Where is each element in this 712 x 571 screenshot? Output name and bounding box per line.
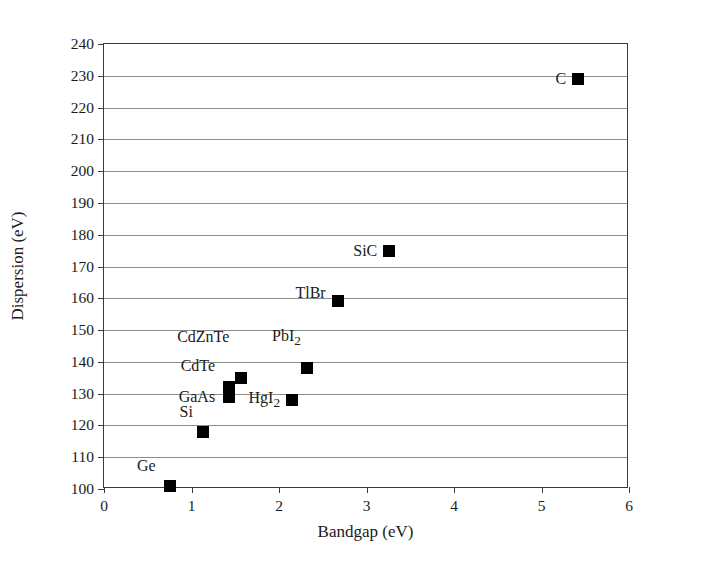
y-tick-label: 110 bbox=[71, 448, 94, 466]
y-tick-mark bbox=[98, 362, 104, 363]
y-tick-label: 190 bbox=[71, 194, 94, 212]
x-tick-label: 3 bbox=[363, 497, 371, 515]
data-point-marker bbox=[572, 73, 584, 85]
y-tick-label: 130 bbox=[71, 385, 94, 403]
x-tick-label: 1 bbox=[188, 497, 196, 515]
gridline bbox=[104, 235, 627, 236]
data-point-marker bbox=[197, 426, 209, 438]
gridline bbox=[104, 139, 627, 140]
x-axis-title: Bandgap (eV) bbox=[103, 522, 628, 542]
data-point-label: HgI2 bbox=[249, 389, 281, 411]
data-point-label: PbI2 bbox=[272, 327, 301, 349]
gridline bbox=[104, 298, 627, 299]
data-point-label: SiC bbox=[353, 242, 377, 260]
data-point-marker bbox=[301, 362, 313, 374]
data-point-label: Ge bbox=[137, 457, 156, 475]
x-tick-mark bbox=[279, 487, 280, 493]
y-axis-title: Dispersion (eV) bbox=[0, 43, 36, 488]
data-point-marker bbox=[223, 381, 235, 393]
data-point-marker bbox=[383, 245, 395, 257]
y-axis-title-label: Dispersion (eV) bbox=[8, 211, 28, 320]
x-tick-label: 0 bbox=[100, 497, 108, 515]
y-tick-mark bbox=[98, 394, 104, 395]
y-tick-mark bbox=[98, 76, 104, 77]
x-tick-mark bbox=[367, 487, 368, 493]
gridline bbox=[104, 267, 627, 268]
y-tick-label: 100 bbox=[71, 480, 94, 498]
data-point-label: TlBr bbox=[295, 284, 325, 302]
y-tick-mark bbox=[98, 139, 104, 140]
gridline bbox=[104, 108, 627, 109]
y-tick-label: 200 bbox=[71, 162, 94, 180]
data-point-label: CdTe bbox=[181, 357, 215, 375]
y-tick-mark bbox=[98, 203, 104, 204]
y-tick-mark bbox=[98, 108, 104, 109]
data-point-label: C bbox=[556, 70, 567, 88]
y-tick-mark bbox=[98, 44, 104, 45]
y-tick-mark bbox=[98, 235, 104, 236]
y-tick-label: 240 bbox=[71, 35, 94, 53]
x-tick-mark bbox=[192, 487, 193, 493]
x-tick-mark bbox=[629, 487, 630, 493]
x-tick-mark bbox=[104, 487, 105, 493]
x-tick-mark bbox=[454, 487, 455, 493]
data-point-label: GaAs bbox=[179, 388, 215, 406]
y-tick-mark bbox=[98, 298, 104, 299]
gridline bbox=[104, 171, 627, 172]
x-tick-label: 6 bbox=[625, 497, 633, 515]
y-tick-mark bbox=[98, 425, 104, 426]
y-tick-mark bbox=[98, 267, 104, 268]
y-tick-mark bbox=[98, 457, 104, 458]
data-point-marker bbox=[235, 372, 247, 384]
data-point-label: CdZnTe bbox=[177, 328, 229, 346]
data-point-marker bbox=[286, 394, 298, 406]
y-tick-label: 140 bbox=[71, 353, 94, 371]
y-tick-label: 230 bbox=[71, 67, 94, 85]
plot-area: 1001101201301401501601701801902002102202… bbox=[103, 43, 628, 488]
gridline bbox=[104, 76, 627, 77]
gridline bbox=[104, 425, 627, 426]
y-tick-mark bbox=[98, 330, 104, 331]
y-tick-label: 210 bbox=[71, 130, 94, 148]
gridline bbox=[104, 457, 627, 458]
scatter-chart-figure: Dispersion (eV) 100110120130140150160170… bbox=[0, 0, 712, 571]
x-tick-mark bbox=[542, 487, 543, 493]
y-tick-mark bbox=[98, 171, 104, 172]
y-tick-label: 160 bbox=[71, 289, 94, 307]
data-point-marker bbox=[164, 480, 176, 492]
y-tick-label: 180 bbox=[71, 226, 94, 244]
y-tick-label: 120 bbox=[71, 416, 94, 434]
x-tick-label: 5 bbox=[538, 497, 546, 515]
y-tick-label: 170 bbox=[71, 258, 94, 276]
data-point-marker bbox=[332, 295, 344, 307]
y-tick-label: 220 bbox=[71, 99, 94, 117]
gridline bbox=[104, 203, 627, 204]
x-tick-label: 2 bbox=[275, 497, 283, 515]
y-tick-label: 150 bbox=[71, 321, 94, 339]
x-tick-label: 4 bbox=[450, 497, 458, 515]
